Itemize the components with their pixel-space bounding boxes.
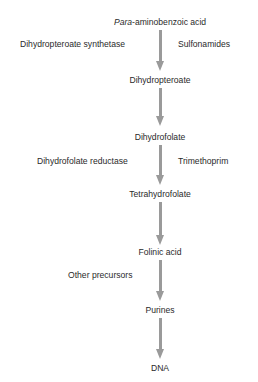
node-para-aminobenzoic-acid: Para-aminobenzoic acid: [114, 17, 206, 27]
node-paba-label: -aminobenzoic acid: [132, 17, 206, 27]
enzyme-dihydropteroate-synthetase: Dihydropteroate synthetase: [20, 39, 125, 49]
arrow-down-icon: [156, 88, 164, 127]
node-dihydrofolate: Dihydrofolate: [135, 132, 186, 142]
inhibitor-trimethoprim: Trimethoprim: [178, 156, 228, 166]
arrow-down-icon: [156, 260, 164, 302]
arrow-down-icon: [156, 145, 164, 186]
node-folinic-acid: Folinic acid: [139, 247, 182, 257]
arrow-down-icon: [156, 202, 164, 246]
node-dna: DNA: [151, 363, 169, 373]
node-paba-italic-prefix: Para: [114, 17, 132, 27]
input-other-precursors: Other precursors: [68, 270, 132, 280]
inhibitor-sulfonamides: Sulfonamides: [178, 39, 230, 49]
arrow-down-icon: [156, 318, 164, 360]
enzyme-dihydrofolate-reductase: Dihydrofolate reductase: [37, 156, 128, 166]
node-purines: Purines: [145, 305, 174, 315]
arrow-down-icon: [156, 30, 164, 72]
node-dihydropteroate: Dihydropteroate: [129, 75, 190, 85]
node-tetrahydrofolate: Tetrahydrofolate: [129, 189, 191, 199]
